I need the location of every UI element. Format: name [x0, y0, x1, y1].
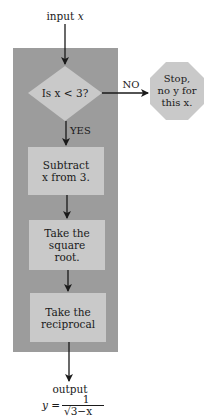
- yes-branch-label: YES: [70, 125, 96, 137]
- flow-connectors: [0, 0, 208, 417]
- stop-text: Stop, no y for this x.: [150, 73, 204, 109]
- formula-numerator: 1: [76, 393, 96, 405]
- no-branch-label: NO: [118, 79, 144, 91]
- step-reciprocal: Take the reciprocal: [30, 293, 106, 342]
- step-subtract: Subtract x from 3.: [28, 147, 104, 195]
- step-square-root: Take the square root.: [29, 220, 105, 270]
- step-subtract-text: Subtract x from 3.: [42, 159, 90, 183]
- formula-denominator: √3−x: [64, 405, 92, 417]
- output-formula: y = 1 √3−x: [42, 395, 122, 417]
- step-square-root-text: Take the square root.: [44, 227, 90, 263]
- formula-lhs: y =: [42, 399, 60, 411]
- decision-text: Is x < 3?: [33, 87, 97, 99]
- step-reciprocal-text: Take the reciprocal: [41, 306, 95, 330]
